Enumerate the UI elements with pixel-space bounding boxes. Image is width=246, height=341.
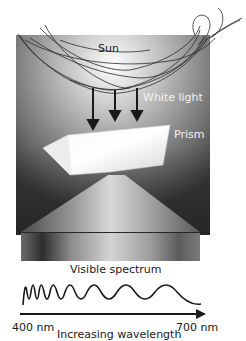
white-light-label: White light: [143, 91, 203, 104]
prism-label: Prism: [174, 128, 204, 141]
visible-spectrum-band: [21, 233, 200, 261]
axis-arrowhead: [196, 309, 206, 319]
diagram-artwork: [0, 0, 246, 341]
sun-label: Sun: [98, 42, 119, 55]
wavelength-start-label: 400 nm: [12, 321, 54, 334]
visible-spectrum-label: Visible spectrum: [70, 263, 161, 276]
prism-diagram: Sun White light Prism Visible spectrum 4…: [0, 0, 246, 341]
wavelength-end-label: 700 nm: [176, 321, 218, 334]
axis-caption: Increasing wavelength: [57, 328, 181, 341]
wavelength-wave: [23, 285, 201, 305]
